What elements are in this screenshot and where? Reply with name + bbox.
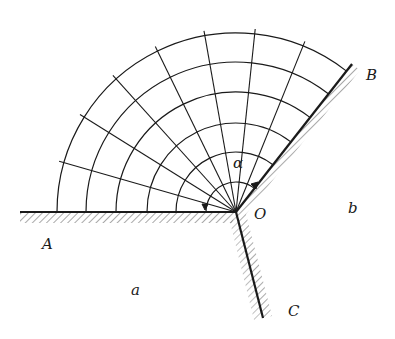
walls xyxy=(20,64,352,318)
wall-hatching xyxy=(20,64,360,320)
ray xyxy=(236,41,305,212)
label-A: A xyxy=(40,235,53,253)
wedge-flow-diagram: A B C O a b α xyxy=(0,0,395,339)
label-alpha: α xyxy=(233,154,243,172)
arc xyxy=(86,62,328,212)
arc xyxy=(57,33,346,212)
label-C: C xyxy=(288,302,300,320)
streamline-arcs xyxy=(57,33,346,212)
arc xyxy=(116,92,310,212)
label-O: O xyxy=(254,205,266,223)
label-b: b xyxy=(348,199,358,217)
label-a: a xyxy=(131,281,140,299)
ray xyxy=(113,75,236,212)
ray xyxy=(204,31,236,212)
label-B: B xyxy=(365,66,377,84)
wall-B xyxy=(236,64,352,212)
